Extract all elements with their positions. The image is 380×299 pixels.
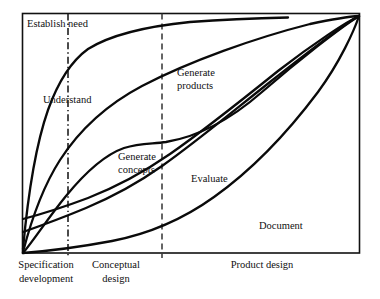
figure-background — [0, 0, 380, 299]
axis-label-conceptual-design-line2: design — [102, 273, 130, 284]
label-generate-concepts-line1: Generate — [118, 151, 156, 162]
axis-label-conceptual-design-line1: Conceptual — [92, 259, 140, 270]
label-establish-need: Establish need — [27, 18, 89, 29]
label-generate-products-line2: products — [177, 80, 213, 91]
design-process-figure: Establish need Understand Generate produ… — [0, 0, 380, 299]
axis-label-product-design: Product design — [231, 259, 294, 270]
axis-label-specification-development-line1: Specification — [18, 259, 74, 270]
label-generate-concepts-line2: concepts — [118, 164, 155, 175]
label-document: Document — [259, 220, 303, 231]
axis-label-specification-development-line2: development — [19, 273, 73, 284]
label-generate-products-line1: Generate — [177, 67, 215, 78]
label-evaluate: Evaluate — [191, 173, 228, 184]
label-understand: Understand — [43, 94, 92, 105]
figure-canvas: Establish need Understand Generate produ… — [0, 0, 380, 299]
